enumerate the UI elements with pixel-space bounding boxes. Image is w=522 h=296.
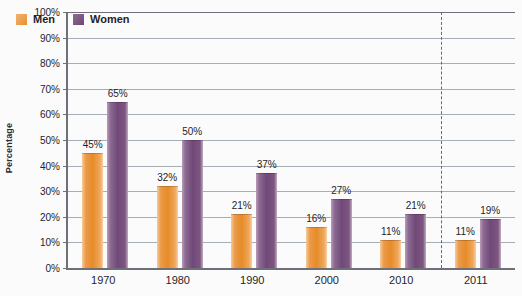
x-axis-label-1990: 1990: [240, 274, 264, 286]
x-axis-label-1970: 1970: [91, 274, 115, 286]
y-axis-tick-label: 30%: [40, 186, 60, 197]
y-axis-title: Percentage: [0, 0, 18, 296]
legend-swatch-women-icon: [73, 14, 84, 25]
y-axis-tick-label: 40%: [40, 160, 60, 171]
y-axis-tickmark: [63, 268, 68, 269]
y-axis-tick-label: 90%: [40, 32, 60, 43]
legend-label-women: Women: [90, 13, 130, 25]
y-axis-tick-label: 50%: [40, 135, 60, 146]
y-axis-tick-label: 60%: [40, 109, 60, 120]
y-axis-tick-label: 80%: [40, 58, 60, 69]
chart-legend: Men Women: [16, 13, 130, 25]
legend-item-men: Men: [16, 13, 55, 25]
x-axis-label-2010: 2010: [389, 274, 413, 286]
x-axis-tick-labels: 197019801990200020102011: [66, 272, 515, 294]
y-axis-tick-label: 20%: [40, 211, 60, 222]
x-axis-label-1980: 1980: [166, 274, 190, 286]
legend-swatch-men-icon: [16, 14, 27, 25]
y-axis-tick-label: 70%: [40, 83, 60, 94]
y-axis-tick-label: 0%: [46, 263, 60, 274]
legend-item-women: Women: [73, 13, 130, 25]
y-axis-title-text: Percentage: [4, 123, 14, 174]
x-axis-label-2000: 2000: [315, 274, 339, 286]
legend-label-men: Men: [33, 13, 55, 25]
x-axis-label-2011: 2011: [464, 274, 488, 286]
plot-area: 45%65%32%50%21%37%16%27%11%21%11%19%: [66, 12, 515, 270]
bar-chart: Percentage 0%10%20%30%40%50%60%70%80%90%…: [0, 0, 522, 296]
annotation-layer: [68, 12, 515, 268]
y-axis-tick-label: 10%: [40, 237, 60, 248]
y-axis-tick-labels: 0%10%20%30%40%50%60%70%80%90%100%: [18, 0, 64, 296]
category-divider-icon: [441, 12, 442, 268]
